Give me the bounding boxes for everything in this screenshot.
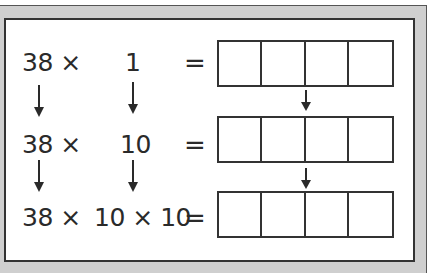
answer-cell[interactable] bbox=[262, 42, 305, 85]
answer-cell[interactable] bbox=[306, 118, 349, 161]
answer-boxes-row2 bbox=[217, 116, 394, 163]
row1-multiplicand: 38 × bbox=[22, 50, 81, 75]
row3-multiplier: 10 × 10 bbox=[94, 205, 191, 230]
row2-multiplier: 10 bbox=[120, 132, 151, 157]
row1-multiplier: 1 bbox=[125, 50, 140, 75]
down-arrow-icon bbox=[305, 90, 307, 109]
answer-boxes-row1 bbox=[217, 40, 394, 87]
answer-cell[interactable] bbox=[262, 118, 305, 161]
answer-cell[interactable] bbox=[349, 193, 392, 236]
row1-equals: = bbox=[184, 50, 206, 76]
row3-equals: = bbox=[184, 205, 206, 231]
down-arrow-icon bbox=[38, 85, 40, 115]
row2-multiplicand: 38 × bbox=[22, 132, 81, 157]
down-arrow-icon bbox=[132, 82, 134, 112]
down-arrow-icon bbox=[305, 168, 307, 187]
row3-multiplicand: 38 × bbox=[22, 205, 81, 230]
down-arrow-icon bbox=[38, 160, 40, 190]
answer-cell[interactable] bbox=[349, 42, 392, 85]
answer-cell[interactable] bbox=[349, 118, 392, 161]
answer-cell[interactable] bbox=[219, 118, 262, 161]
answer-cell[interactable] bbox=[306, 42, 349, 85]
answer-cell[interactable] bbox=[306, 193, 349, 236]
answer-cell[interactable] bbox=[219, 193, 262, 236]
down-arrow-icon bbox=[132, 160, 134, 190]
answer-boxes-row3 bbox=[217, 191, 394, 238]
answer-cell[interactable] bbox=[262, 193, 305, 236]
row2-equals: = bbox=[184, 132, 206, 158]
answer-cell[interactable] bbox=[219, 42, 262, 85]
